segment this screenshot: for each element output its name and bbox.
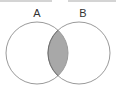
venn-diagram: A B: [0, 0, 116, 87]
set-a-label: A: [33, 7, 41, 19]
set-b-label: B: [79, 7, 86, 19]
